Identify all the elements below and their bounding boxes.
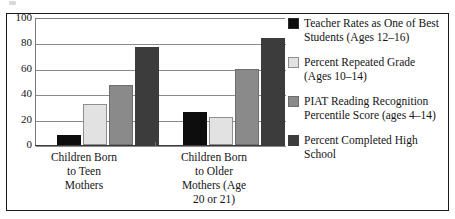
legend-entry-3[interactable]: Percent Completed High School [288,133,443,161]
legend-entry-2[interactable]: PIAT Reading Recognition Percentile Scor… [288,94,443,122]
y-tick-label-100: 100 [16,12,33,23]
bar-group1-series0 [183,112,207,145]
legend-swatch-icon-3 [288,135,299,146]
y-tick-label-40: 40 [21,88,32,99]
bars-layer [35,18,285,145]
bar-group0-series1 [83,104,107,145]
y-tick-label-0: 0 [27,139,33,150]
bar-chart-figure: 020406080100 Children Born to Teen Mothe… [0,0,455,219]
legend-label-1: Percent Repeated Grade (Ages 10–14) [304,55,443,83]
legend-entry-1[interactable]: Percent Repeated Grade (Ages 10–14) [288,55,443,83]
legend-swatch-icon-1 [288,57,299,68]
x-axis-group-label-teen-mothers: Children Born to Teen Mothers [24,150,144,192]
chart-legend: Teacher Rates as One of Best Students (A… [288,16,443,172]
y-tick-label-60: 60 [21,63,32,74]
legend-swatch-icon-0 [288,18,299,29]
bar-group1-series1 [209,117,233,145]
y-tick-label-20: 20 [21,114,32,125]
group-divider-tick [155,142,156,146]
legend-label-0: Teacher Rates as One of Best Students (A… [304,16,443,44]
bar-group1-series2 [235,69,259,145]
legend-swatch-icon-2 [288,96,299,107]
x-axis-group-label-older-mothers: Children Born to Older Mothers (Age 20 o… [150,150,278,206]
bar-group0-series3 [135,47,159,145]
bar-group0-series0 [57,135,81,145]
bar-group1-series3 [261,38,285,145]
bar-group0-series2 [109,85,133,145]
x-axis-baseline [35,145,285,146]
legend-label-2: PIAT Reading Recognition Percentile Scor… [304,94,443,122]
y-tick-label-80: 80 [21,37,32,48]
gridline-0 [36,146,286,147]
legend-entry-0[interactable]: Teacher Rates as One of Best Students (A… [288,16,443,44]
legend-label-3: Percent Completed High School [304,133,443,161]
